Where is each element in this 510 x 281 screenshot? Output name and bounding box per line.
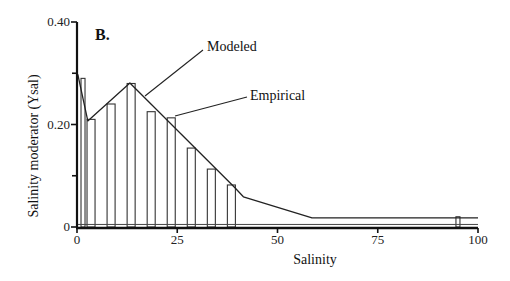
y-tick-label: 0.20 — [47, 117, 70, 132]
x-axis-title: Salinity — [293, 252, 337, 267]
axes — [76, 22, 478, 228]
modeled-annotation: Modeled — [207, 39, 257, 54]
y-axis-title: Salinity moderator (Ysal) — [26, 74, 42, 217]
empirical-bar — [167, 118, 175, 227]
x-tick-label: 50 — [271, 232, 284, 247]
x-tick-label: 0 — [74, 232, 81, 247]
empirical-bar — [147, 112, 155, 227]
x-axis-ticks: 0255075100 — [74, 228, 488, 247]
empirical-annotation: Empirical — [250, 88, 305, 103]
x-tick-label: 25 — [171, 232, 184, 247]
x-tick-label: 100 — [468, 232, 488, 247]
empirical-bar — [127, 84, 135, 228]
empirical-bar — [87, 119, 95, 227]
y-tick-label: 0.40 — [47, 14, 70, 29]
empirical-bar — [207, 169, 215, 227]
y-axis-ticks: 00.200.40 — [47, 14, 77, 234]
modeled-leader-line — [145, 50, 203, 96]
x-tick-label: 75 — [371, 232, 384, 247]
empirical-bar — [187, 148, 195, 227]
y-tick-label: 0 — [64, 219, 71, 234]
salinity-moderator-chart: 0255075100 00.200.40 B. Modeled Empirica… — [0, 0, 510, 281]
empirical-bar — [227, 185, 235, 227]
panel-label: B. — [95, 26, 110, 43]
empirical-leader-line — [175, 97, 247, 116]
empirical-bar — [107, 104, 115, 227]
